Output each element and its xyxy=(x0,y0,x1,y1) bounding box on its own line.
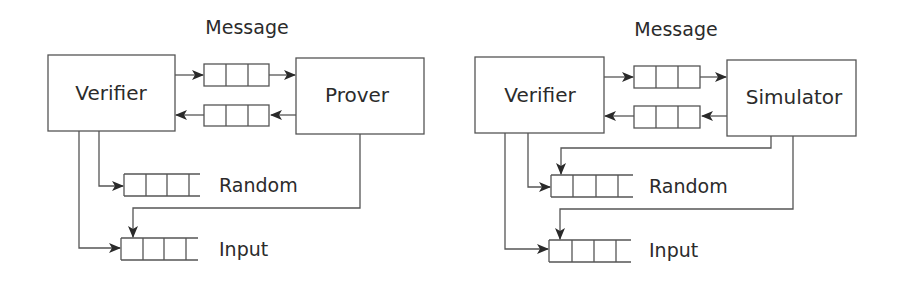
diagram-canvas xyxy=(0,0,901,285)
input-tape-label: Input xyxy=(219,240,268,259)
arrow-simulator-to-random xyxy=(561,136,771,174)
message-label: Message xyxy=(205,18,288,37)
random-tape xyxy=(551,175,633,197)
simulator-label: Simulator xyxy=(746,87,843,107)
arrow-verifier-to-input xyxy=(505,133,548,249)
message-label: Message xyxy=(634,20,717,39)
message-queue-to-prover xyxy=(204,64,269,86)
message-queue-to-simulator xyxy=(634,66,700,88)
random-tape-label: Random xyxy=(219,176,298,195)
input-tape-label: Input xyxy=(649,241,698,260)
verifier-label: Verifier xyxy=(504,85,575,105)
message-queue-to-verifier xyxy=(634,106,700,128)
verifier-label: Verifier xyxy=(75,83,146,103)
input-tape xyxy=(121,238,198,260)
input-tape xyxy=(549,240,631,262)
arrow-verifier-to-random xyxy=(528,133,550,187)
prover-label: Prover xyxy=(325,85,389,105)
arrow-verifier-to-random xyxy=(99,131,123,186)
message-queue-to-verifier xyxy=(204,105,269,126)
random-tape xyxy=(124,174,200,196)
random-tape-label: Random xyxy=(649,177,728,196)
